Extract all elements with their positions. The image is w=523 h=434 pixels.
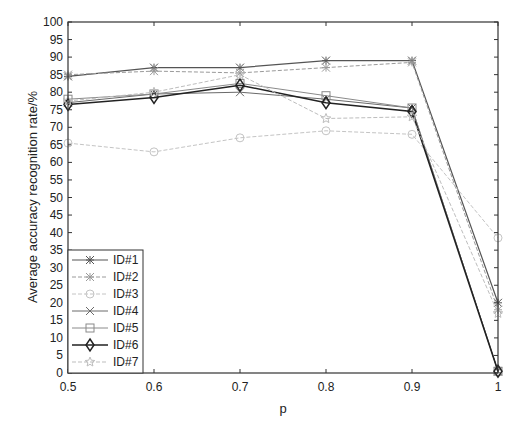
x-tick-label: 0.9 (404, 380, 421, 394)
y-tick-label: 50 (50, 191, 64, 205)
x-axis-label: p (279, 401, 286, 416)
y-tick-label: 95 (50, 33, 64, 47)
y-tick-label: 70 (50, 120, 64, 134)
y-tick-label: 100 (43, 15, 63, 29)
legend: ID#1ID#2ID#3ID#4ID#5ID#6ID#7 (68, 250, 143, 373)
y-tick-label: 65 (50, 138, 64, 152)
y-tick-label: 15 (50, 313, 64, 327)
y-tick-label: 60 (50, 155, 64, 169)
legend-label: ID#3 (113, 287, 139, 301)
legend-label: ID#7 (113, 355, 139, 369)
line-chart: 0510152025303540455055606570758085909510… (0, 0, 523, 434)
y-tick-label: 90 (50, 50, 64, 64)
y-tick-label: 0 (56, 366, 63, 380)
x-tick-label: 0.8 (318, 380, 335, 394)
y-tick-label: 25 (50, 278, 64, 292)
x-tick-label: 1 (495, 380, 502, 394)
legend-label: ID#1 (113, 253, 139, 267)
legend-label: ID#6 (113, 338, 139, 352)
legend-label: ID#4 (113, 304, 139, 318)
x-tick-label: 0.6 (146, 380, 163, 394)
y-tick-label: 20 (50, 296, 64, 310)
x-tick-label: 0.5 (60, 380, 77, 394)
y-axis-label: Average accuracy recognition rate/% (25, 90, 40, 303)
y-tick-label: 5 (56, 348, 63, 362)
legend-label: ID#2 (113, 270, 139, 284)
y-tick-label: 40 (50, 226, 64, 240)
y-tick-label: 35 (50, 243, 64, 257)
y-tick-label: 45 (50, 208, 64, 222)
x-tick-label: 0.7 (232, 380, 249, 394)
y-tick-label: 85 (50, 68, 64, 82)
legend-label: ID#5 (113, 321, 139, 335)
y-tick-label: 30 (50, 261, 64, 275)
y-tick-label: 75 (50, 103, 64, 117)
y-tick-label: 55 (50, 173, 64, 187)
y-tick-label: 80 (50, 85, 64, 99)
y-tick-label: 10 (50, 331, 64, 345)
